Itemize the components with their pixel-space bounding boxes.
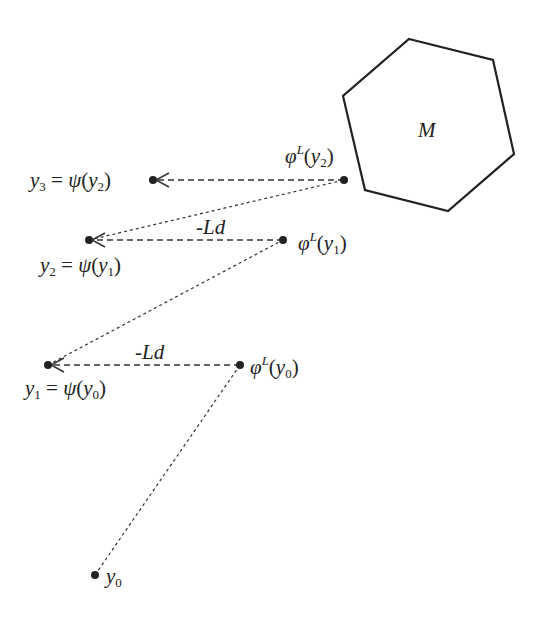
label-phi-y0: φL(y0) bbox=[250, 354, 299, 380]
point-phi-y0 bbox=[236, 361, 244, 369]
label-y0: y0 bbox=[106, 566, 122, 589]
label-y1-eq: y1 = ψ(y0) bbox=[25, 378, 106, 401]
point-phi-y2 bbox=[340, 176, 348, 184]
set-label-m: M bbox=[418, 120, 436, 141]
diagram-svg bbox=[0, 0, 541, 625]
point-y2 bbox=[85, 236, 93, 244]
map-line-y0-phi0 bbox=[95, 365, 240, 575]
label-phi-y1: φL(y1) bbox=[298, 230, 347, 256]
label-phi-y2: φL(y2) bbox=[285, 143, 334, 169]
label-y3-eq: y3 = ψ(y2) bbox=[30, 170, 111, 193]
point-y0 bbox=[91, 571, 99, 579]
diagram-canvas: M y3 = ψ(y2) φL(y2) -Ld φL(y1) y2 = ψ(y1… bbox=[0, 0, 541, 625]
label-y2-eq: y2 = ψ(y1) bbox=[40, 255, 121, 278]
point-y3 bbox=[149, 176, 157, 184]
step-label-1: -Ld bbox=[135, 342, 164, 363]
point-phi-y1 bbox=[279, 236, 287, 244]
point-y1 bbox=[44, 361, 52, 369]
step-label-2: -Ld bbox=[196, 217, 225, 238]
